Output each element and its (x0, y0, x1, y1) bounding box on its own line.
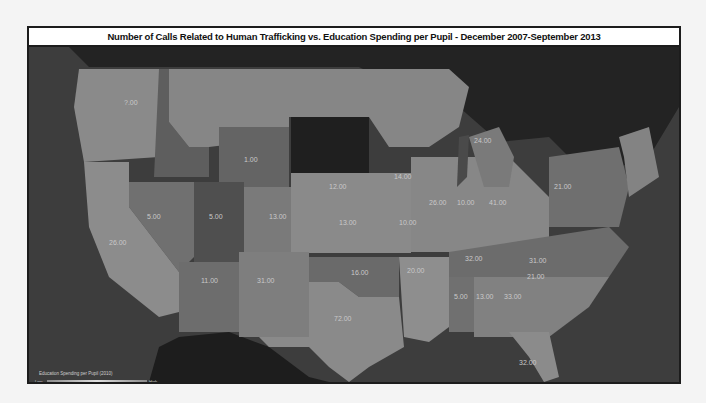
state-ne-ks (291, 173, 411, 253)
label-ne: 12.00 (329, 183, 347, 190)
label-az: 11.00 (201, 277, 218, 284)
legend-title: Education Spending per Pupil (2010) (39, 371, 113, 376)
label-mi: 24.00 (474, 137, 492, 144)
label-nm: 31.00 (257, 277, 275, 284)
label-ms: 5.00 (454, 293, 468, 300)
label-oh: 41.00 (489, 199, 507, 206)
legend-max-label: High (149, 379, 157, 384)
state-az (179, 262, 239, 332)
label-al: 13.00 (476, 293, 494, 300)
state-nm (239, 252, 309, 337)
label-il: 26.00 (429, 199, 447, 206)
state-sd (291, 117, 369, 173)
map-legend: Education Spending per Pupil (2010) Low … (35, 371, 165, 384)
label-in: 10.00 (457, 199, 475, 206)
state-ut (194, 182, 244, 262)
label-tn: 32.00 (465, 255, 483, 262)
label-co: 13.00 (269, 213, 287, 220)
label-nc: 31.00 (529, 257, 547, 264)
label-tx: 72.00 (334, 315, 352, 322)
label-wy: 1.00 (244, 156, 258, 163)
chart-title: Number of Calls Related to Human Traffic… (29, 28, 679, 47)
label-mo: 10.00 (399, 219, 417, 226)
label-ia: 14.00 (394, 173, 412, 180)
label-wa: ?.00 (124, 99, 138, 106)
state-ms (449, 277, 474, 332)
label-fl: 32.00 (519, 359, 537, 366)
label-ok: 16.00 (351, 269, 369, 276)
label-ks: 13.00 (339, 219, 357, 226)
us-choropleth-map: ?.00 5.00 5.00 26.00 1.00 13.00 12.00 13… (29, 47, 679, 382)
legend-min-label: Low (35, 379, 42, 384)
label-nv: 5.00 (147, 213, 161, 220)
legend-gradient-bar (47, 380, 147, 384)
state-wa-or (74, 69, 169, 162)
label-sc: 21.00 (527, 273, 545, 280)
label-pa: 21.00 (554, 183, 572, 190)
label-ut: 5.00 (209, 213, 223, 220)
label-ca: 26.00 (109, 239, 127, 246)
map-figure: Number of Calls Related to Human Traffic… (27, 26, 681, 384)
map-canvas: ?.00 5.00 5.00 26.00 1.00 13.00 12.00 13… (29, 47, 679, 382)
label-ga: 33.00 (504, 293, 522, 300)
label-ar: 20.00 (407, 267, 425, 274)
